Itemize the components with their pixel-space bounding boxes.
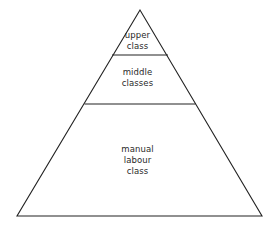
- tier-label-line: manual: [1, 144, 273, 155]
- tier-label-line: labour: [1, 155, 273, 166]
- tier-label-middle-classes: middle classes: [1, 67, 273, 89]
- tier-label-line: upper: [1, 30, 273, 41]
- pyramid-diagram: upper class middle classes manual labour…: [0, 0, 273, 229]
- tier-label-upper-class: upper class: [1, 30, 273, 52]
- tier-label-line: classes: [1, 78, 273, 89]
- tier-label-line: class: [1, 41, 273, 52]
- tier-label-line: middle: [1, 67, 273, 78]
- tier-label-line: class: [1, 166, 273, 177]
- tier-label-manual-labour-class: manual labour class: [1, 144, 273, 177]
